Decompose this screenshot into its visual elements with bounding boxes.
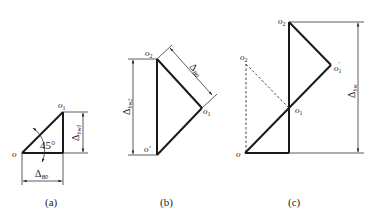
extension-line: [157, 45, 172, 59]
point-o-label: o: [236, 149, 241, 159]
caption-c: (c): [288, 196, 301, 209]
diagram-canvas: o o1 45° ΔB0 Δbw1 (a) o2 o1 o' ΔB0 Δbw2 …: [0, 0, 374, 220]
point-oprime-label: o': [144, 144, 152, 154]
line-oprime-o1: [157, 108, 202, 155]
line-o2-o1prime: [289, 22, 331, 65]
point-o1-label: o1: [203, 106, 211, 117]
figure-a: o o1 45° ΔB0 Δbw1 (a): [12, 100, 88, 209]
point-o2-label: o2: [278, 16, 286, 27]
caption-a: (a): [45, 196, 58, 209]
point-o-label: o: [12, 149, 17, 159]
figure-b: o2 o1 o' ΔB0 Δbw2 (b): [121, 45, 217, 209]
dim-b0-label: ΔB0: [187, 61, 205, 79]
angle-label: 45°: [40, 139, 55, 151]
point-o2-label: o2: [145, 48, 153, 59]
dim-bw2-label: Δbw2: [121, 99, 133, 115]
point-o1-label: o1: [58, 100, 66, 111]
point-o1-label: o1: [295, 105, 303, 116]
dashed-diagonal: [246, 64, 289, 108]
caption-b: (b): [160, 196, 173, 209]
dim-b0-label: ΔB0: [35, 168, 48, 180]
point-o2-dashed-label: o2: [240, 52, 248, 63]
figure-c: o o2 o2 o1 o1' Δbw (c): [236, 16, 364, 209]
dim-bw1-label: Δbw1: [70, 125, 82, 141]
dim-bw-label: Δbw: [346, 85, 358, 98]
point-o1prime-label: o1': [334, 61, 342, 74]
